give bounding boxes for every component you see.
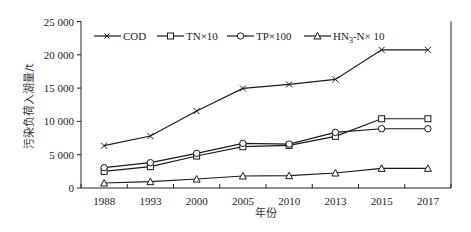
- circle-marker-icon: [425, 126, 431, 132]
- x-axis: 19881993200020052010201320152017: [81, 184, 451, 207]
- legend-label: COD: [123, 30, 146, 42]
- x-tick-label: 2000: [186, 195, 209, 207]
- legend: COD TN×10 TP×100 HN3-N× 10: [94, 30, 385, 45]
- square-marker-icon: [379, 116, 385, 122]
- x-axis-title: 年份: [255, 206, 277, 220]
- y-tick-label: 20 000: [44, 49, 75, 61]
- square-marker-icon: [168, 33, 174, 39]
- x-tick-label: 2015: [371, 195, 394, 207]
- y-tick-label: 15 000: [44, 82, 75, 94]
- y-tick-label: 5 000: [49, 149, 74, 161]
- circle-marker-icon: [378, 126, 384, 132]
- square-marker-icon: [425, 116, 431, 122]
- x-tick-label: 2005: [232, 195, 255, 207]
- legend-label: HN3-N× 10: [333, 30, 385, 45]
- series-layer: [101, 47, 432, 186]
- circle-marker-icon: [332, 129, 338, 135]
- x-tick-label: 1993: [139, 195, 162, 207]
- circle-marker-icon: [193, 150, 199, 156]
- legend-item-hn3n: HN3-N× 10: [304, 30, 385, 45]
- x-tick-label: 2017: [417, 195, 440, 207]
- y-tick-label: 10 000: [44, 115, 75, 127]
- y-axis: 05 00010 00015 00020 00025 000: [44, 16, 81, 195]
- x-marker-icon: [194, 108, 200, 114]
- line-chart: 05 00010 00015 00020 00025 000 198819932…: [0, 0, 471, 232]
- y-tick-label: 25 000: [44, 16, 75, 28]
- circle-marker-icon: [240, 140, 246, 146]
- legend-item-cod: COD: [94, 30, 146, 42]
- circle-marker-icon: [101, 164, 107, 170]
- circle-marker-icon: [147, 159, 153, 165]
- circle-marker-icon: [286, 141, 292, 147]
- circle-marker-icon: [237, 33, 243, 39]
- y-axis-title: 污染负荷入湖量/t: [22, 63, 36, 149]
- series-cod: [101, 47, 431, 149]
- legend-label: TN×10: [186, 30, 218, 42]
- x-tick-label: 2013: [324, 195, 347, 207]
- y-tick-label: 0: [69, 182, 75, 194]
- legend-item-tn: TN×10: [157, 30, 218, 42]
- legend-label: TP×100: [256, 30, 292, 42]
- x-tick-label: 2010: [278, 195, 301, 207]
- x-tick-label: 1988: [93, 195, 116, 207]
- legend-item-tp: TP×100: [227, 30, 292, 42]
